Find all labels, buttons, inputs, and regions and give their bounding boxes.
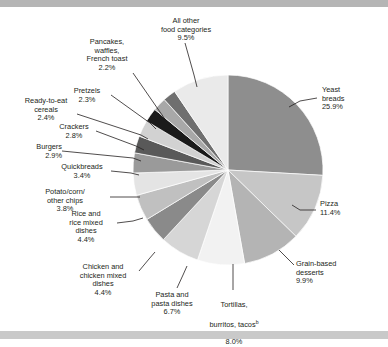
pie-chart: Yeast breads 25.9% Pizza 11.4% Grain-bas… — [0, 7, 388, 331]
leader-line-rice — [117, 218, 143, 223]
slice-label-grain-based-desserts: Grain-based desserts 9.9% — [296, 260, 376, 286]
top-band — [0, 0, 388, 7]
slice-label-pasta: Pasta and pasta dishes 6.7% — [132, 291, 212, 317]
slice-label-yeast-breads: Yeast breads 25.9% — [322, 86, 384, 112]
pie-slice-group — [133, 75, 323, 265]
slice-label-pretzels: Pretzels 2.3% — [62, 87, 112, 104]
slice-label-quickbreads: Quickbreads 3.4% — [52, 163, 112, 180]
leader-line-all-other — [185, 43, 197, 87]
pie-slice — [228, 75, 323, 175]
slice-label-crackers: Crackers 2.8% — [50, 123, 98, 140]
leader-line-pancakes — [133, 73, 165, 119]
slice-label-chips: Potato/corn/ other chips 3.8% — [20, 188, 110, 214]
footnote-marker-b: b — [256, 319, 259, 325]
slice-label-pizza: Pizza 11.4% — [320, 200, 382, 217]
leader-line-grain-based-desserts — [279, 250, 294, 265]
slice-label-all-other: All other food categories 9.5% — [144, 17, 228, 43]
slice-label-pancakes: Pancakes, waffles, French toast 2.2% — [78, 38, 136, 72]
slice-label-tortillas-line1: Tortillas, — [221, 300, 248, 309]
leader-line-burgers — [62, 151, 141, 161]
slice-label-tortillas-line2: burritos, tacos — [210, 320, 256, 329]
slice-label-rice: Rice and rice mixed dishes 4.4% — [55, 210, 117, 244]
leader-line-pasta — [177, 266, 187, 288]
slice-label-chicken: Chicken and chicken mixed dishes 4.4% — [62, 263, 144, 297]
slice-label-burgers: Burgers 2.9% — [12, 143, 62, 160]
slice-label-tortillas-percent: 8.0% — [226, 337, 243, 346]
